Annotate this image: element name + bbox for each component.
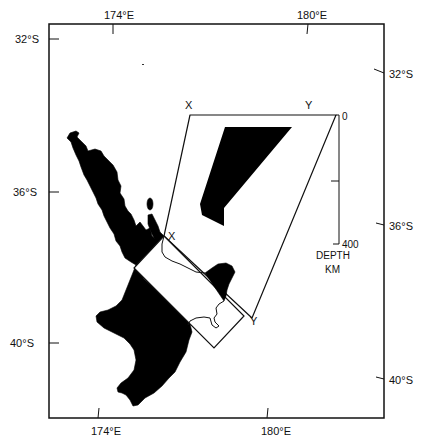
label-top-174e: 174°E (104, 9, 134, 21)
section-label-x-land: X (168, 230, 176, 242)
depth-scale-0-label: 0 (342, 111, 348, 122)
depth-scale-unit: KM (325, 264, 340, 275)
tick-bottom-174e (98, 408, 99, 418)
label-left-36s: 36°S (13, 186, 37, 198)
label-bottom-180e: 180°E (261, 425, 291, 437)
tick-right-32s (374, 69, 384, 73)
section-label-x-top: X (185, 99, 193, 111)
tick-bottom-180e (267, 408, 268, 418)
section-label-y-top: Y (305, 99, 313, 111)
label-top-180e: 180°E (297, 9, 327, 21)
map-figure: 174°E 180°E 32°S 36°S 40°S 32°S 36°S 40°… (0, 0, 427, 443)
depth-scale-title: DEPTH (316, 250, 350, 261)
section-label-y-land: Y (250, 315, 258, 327)
tick-right-36s (376, 223, 384, 225)
tick-right-40s (376, 377, 384, 379)
slab-depth-region (200, 127, 292, 226)
offshore-island (147, 198, 153, 210)
depth-scale-400-label: 400 (342, 239, 359, 250)
label-right-40s: 40°S (389, 374, 413, 386)
label-left-32s: 32°S (15, 33, 39, 45)
depth-scale: 0 400 DEPTH KM (316, 111, 359, 275)
tick-top-180e (307, 24, 308, 34)
map-speck (142, 64, 144, 65)
label-bottom-174e: 174°E (91, 425, 121, 437)
map-svg: 174°E 180°E 32°S 36°S 40°S 32°S 36°S 40°… (0, 0, 427, 443)
label-left-40s: 40°S (10, 337, 34, 349)
label-right-36s: 36°S (389, 220, 413, 232)
label-right-32s: 32°S (389, 68, 413, 80)
